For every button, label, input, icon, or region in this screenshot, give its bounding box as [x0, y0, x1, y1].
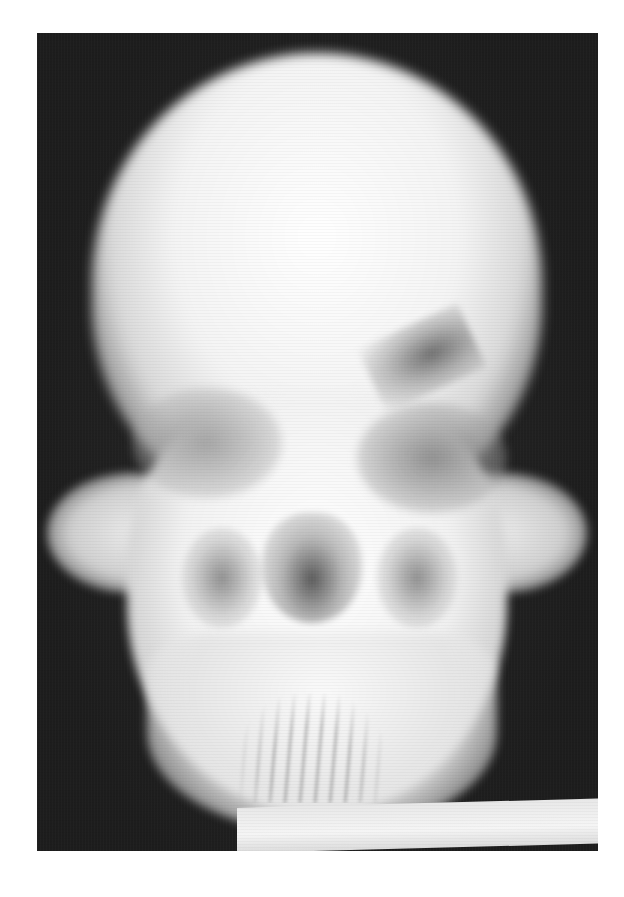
right-orbit	[357, 403, 507, 513]
left-orbit	[132, 388, 282, 498]
nasal-cavity	[262, 513, 362, 623]
left-maxillary-sinus	[182, 528, 262, 628]
film-label-strip	[237, 799, 598, 851]
teeth-region	[237, 693, 387, 803]
skull-xray-image	[37, 33, 598, 851]
right-maxillary-sinus	[377, 528, 457, 628]
